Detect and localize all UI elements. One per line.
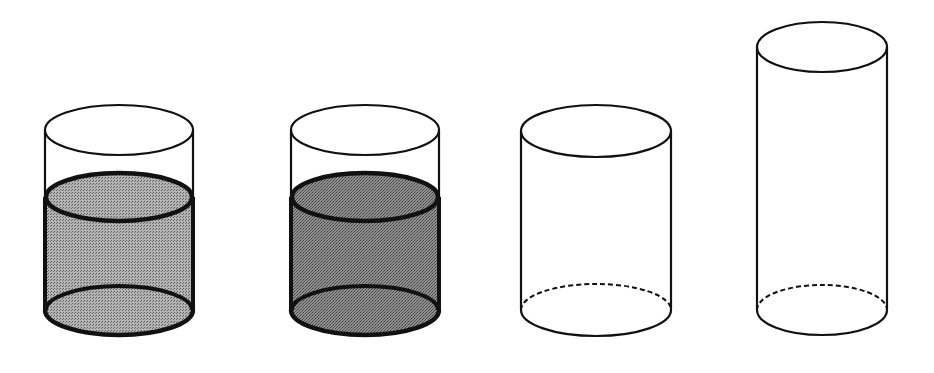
cylinders-diagram bbox=[0, 0, 934, 373]
cylinder-4-empty-tall bbox=[757, 22, 887, 335]
top-rim bbox=[45, 105, 193, 155]
cylinder-3-empty-wide bbox=[521, 105, 671, 336]
bottom-hidden-rim-dashed bbox=[521, 284, 671, 310]
cylinder-2-filled-dark bbox=[291, 105, 439, 335]
top-rim bbox=[291, 105, 439, 155]
bottom-visible-rim bbox=[757, 310, 887, 335]
top-rim bbox=[521, 105, 671, 157]
cylinder-1-filled-light bbox=[45, 105, 193, 335]
bottom-visible-rim bbox=[521, 310, 671, 336]
liquid-surface bbox=[46, 173, 192, 221]
top-rim bbox=[757, 22, 887, 72]
bottom-hidden-rim-dashed bbox=[757, 285, 887, 310]
liquid-surface bbox=[292, 173, 438, 221]
